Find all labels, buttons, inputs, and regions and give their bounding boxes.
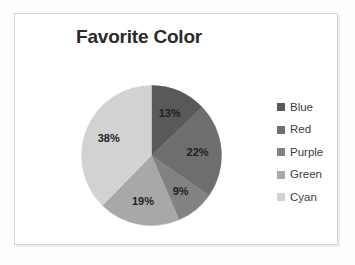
legend-item-blue[interactable]: Blue [277, 96, 347, 119]
legend-item-label: Blue [290, 102, 313, 114]
legend-item-label: Red [290, 124, 311, 136]
pie-chart: 13%22%9%19%38% [81, 85, 222, 226]
legend-swatch-icon [277, 171, 285, 179]
legend-item-cyan[interactable]: Cyan [277, 186, 347, 209]
legend-item-purple[interactable]: Purple [277, 141, 347, 164]
chart-legend: BlueRedPurpleGreenCyan [277, 96, 347, 209]
legend-item-label: Cyan [290, 192, 317, 204]
legend-swatch-icon [277, 103, 285, 111]
legend-item-red[interactable]: Red [277, 119, 347, 142]
legend-item-green[interactable]: Green [277, 164, 347, 187]
chart-title: Favorite Color [14, 26, 264, 48]
legend-item-label: Purple [290, 147, 323, 159]
legend-item-label: Green [290, 169, 322, 181]
chart-screenshot: Favorite Color 13%22%9%19%38% BlueRedPur… [0, 0, 355, 265]
legend-swatch-icon [277, 148, 285, 156]
legend-swatch-icon [277, 126, 285, 134]
pie-svg [81, 85, 222, 226]
legend-swatch-icon [277, 193, 285, 201]
